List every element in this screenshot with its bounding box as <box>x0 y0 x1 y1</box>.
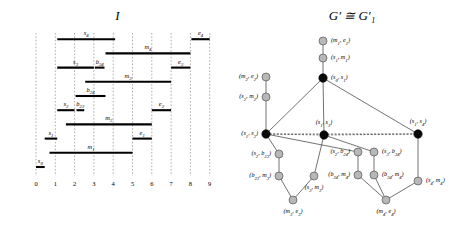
interval-label: m3 <box>125 72 132 81</box>
graph-node-gray[interactable] <box>319 54 327 62</box>
graph-node-gray[interactable] <box>275 172 283 180</box>
graph-node-label: (s3, m3) <box>305 183 324 192</box>
axis-tick-label: 0 <box>34 180 37 187</box>
interval-label: e3 <box>178 58 183 67</box>
graph-node-label: (s2, b23) <box>251 149 271 158</box>
axis-tick-label: 2 <box>73 180 76 187</box>
axis-tick-label: 4 <box>112 180 115 187</box>
axis-tick-label: 8 <box>189 180 192 187</box>
graph-node-label: (b34, m4) <box>382 170 404 179</box>
interval-label: m2 <box>105 114 112 123</box>
graph-node-label: (b24, m4) <box>328 170 350 179</box>
graph-node-label: (m2, e2) <box>239 72 258 81</box>
interval-label: m4 <box>144 43 151 52</box>
interval-label: m1 <box>87 143 94 152</box>
graph-node-gray[interactable] <box>370 148 378 156</box>
interval-label: b24 <box>86 86 94 95</box>
graph-node-label: (m1, e1) <box>331 36 350 45</box>
axis-tick-label: 9 <box>208 180 211 187</box>
graph-edge <box>323 78 418 134</box>
graph-node-gray[interactable] <box>275 150 283 158</box>
interval-label: s4 <box>84 29 89 38</box>
graph-node-gray[interactable] <box>370 171 378 179</box>
graph-edge <box>266 78 323 134</box>
graph-node-label: (s3, b34) <box>382 147 402 156</box>
graph-node-label: (s1, m1) <box>331 53 350 62</box>
graph-node-label: (s1, s4) <box>410 117 427 126</box>
graph-node-gray[interactable] <box>382 196 390 204</box>
axis-tick-label: 6 <box>150 180 153 187</box>
graph-node-label: (b23, m3) <box>249 171 271 180</box>
interval-label: b23 <box>76 100 84 109</box>
graph-node-label: (m3, e3) <box>283 207 302 216</box>
axis-tick-label: 5 <box>131 180 134 187</box>
graph-node-gray[interactable] <box>262 93 270 101</box>
graph-node-black[interactable] <box>319 74 327 82</box>
interval-representation-panel: I s0m1s1e1m2s2b23e2b24m3s3b34e3m4s4e4 01… <box>0 0 235 231</box>
interval-label: s1 <box>48 129 53 138</box>
interval-label: e2 <box>159 100 164 109</box>
graph-node-label: (s1, s3) <box>316 118 333 127</box>
axis-tick-label: 3 <box>92 180 95 187</box>
graph-node-label: (s2, m2) <box>239 92 258 101</box>
graph-node-gray[interactable] <box>310 172 318 180</box>
graph-node-black[interactable] <box>262 130 270 138</box>
graph-node-label: (m4, e4) <box>376 207 395 216</box>
graph-node-gray[interactable] <box>414 177 422 185</box>
axis-tick-label: 7 <box>169 180 172 187</box>
graph-node-black[interactable] <box>414 130 422 138</box>
graph-panel: G′ ≅ G′₁ (s0, s1)(s1, m1)(m1, e1)(s1, s2… <box>235 0 469 231</box>
graph-node-gray[interactable] <box>354 148 362 156</box>
graph-node-label: (s0, s1) <box>331 73 348 82</box>
graph-edge <box>314 135 324 176</box>
graph-node-label: (s1, s2) <box>241 129 258 138</box>
interval-label: e4 <box>198 29 203 38</box>
interval-label: s3 <box>73 58 78 67</box>
graph-node-gray[interactable] <box>262 73 270 81</box>
interval-label: s0 <box>38 157 43 166</box>
graph-node-label: (s2, b24) <box>330 147 350 156</box>
axis-tick-label: 1 <box>54 180 57 187</box>
figure-root: I s0m1s1e1m2s2b23e2b24m3s3b34e3m4s4e4 01… <box>0 0 469 231</box>
interval-label: e1 <box>139 129 144 138</box>
graph-node-gray[interactable] <box>354 171 362 179</box>
graph-node-gray[interactable] <box>289 196 297 204</box>
graph-node-label: (s4, m4) <box>426 176 445 185</box>
graph-node-gray[interactable] <box>319 37 327 45</box>
graph-diagram-svg <box>235 0 469 231</box>
graph-edge <box>386 181 418 200</box>
interval-label: s2 <box>63 100 68 109</box>
interval-label: b34 <box>96 58 104 67</box>
graph-node-black[interactable] <box>320 131 328 139</box>
